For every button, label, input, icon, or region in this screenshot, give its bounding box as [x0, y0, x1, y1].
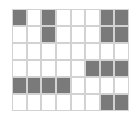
grid-cell-r4-c2: [42, 78, 55, 93]
grid-cell-r1-c7: [115, 27, 128, 42]
grid-cell-r0-c3: [57, 10, 70, 25]
grid-cell-r5-c5: [86, 95, 99, 110]
grid-cell-r2-c7: [115, 44, 128, 59]
grid-cell-r3-c2: [42, 61, 55, 76]
grid-cell-r0-c0: [13, 10, 26, 25]
grid-cell-r1-c3: [57, 27, 70, 42]
grid-cell-r0-c4: [72, 10, 85, 25]
grid-cell-r2-c0: [13, 44, 26, 59]
grid-cell-r2-c4: [72, 44, 85, 59]
grid-cell-r5-c7: [115, 95, 128, 110]
grid-cell-r0-c5: [86, 10, 99, 25]
grid-cell-r5-c1: [28, 95, 41, 110]
grid-cell-r1-c5: [86, 27, 99, 42]
grid-cell-r4-c4: [72, 78, 85, 93]
grid-cell-r4-c3: [57, 78, 70, 93]
grid-cell-r2-c2: [42, 44, 55, 59]
grid-cell-r5-c0: [13, 95, 26, 110]
grid-cell-r2-c6: [101, 44, 114, 59]
grid-cell-r1-c0: [13, 27, 26, 42]
pixel-grid: [12, 9, 129, 111]
grid-cell-r0-c6: [101, 10, 114, 25]
grid-cell-r4-c6: [101, 78, 114, 93]
grid-cell-r0-c7: [115, 10, 128, 25]
grid-cell-r4-c0: [13, 78, 26, 93]
grid-cell-r3-c7: [115, 61, 128, 76]
grid-cell-r3-c0: [13, 61, 26, 76]
grid-cell-r5-c4: [72, 95, 85, 110]
grid-cell-r5-c3: [57, 95, 70, 110]
grid-cell-r0-c2: [42, 10, 55, 25]
grid-cell-r3-c5: [86, 61, 99, 76]
grid-cell-r4-c5: [86, 78, 99, 93]
grid-cell-r3-c6: [101, 61, 114, 76]
grid-cell-r2-c3: [57, 44, 70, 59]
grid-cell-r3-c4: [72, 61, 85, 76]
grid-cell-r0-c1: [28, 10, 41, 25]
grid-cell-r2-c1: [28, 44, 41, 59]
grid-cell-r3-c3: [57, 61, 70, 76]
grid-cell-r5-c2: [42, 95, 55, 110]
grid-cell-r1-c6: [101, 27, 114, 42]
grid-cell-r1-c2: [42, 27, 55, 42]
grid-cell-r3-c1: [28, 61, 41, 76]
grid-cell-r4-c1: [28, 78, 41, 93]
grid-cell-r1-c4: [72, 27, 85, 42]
grid-cell-r2-c5: [86, 44, 99, 59]
grid-cell-r1-c1: [28, 27, 41, 42]
grid-cell-r5-c6: [101, 95, 114, 110]
grid-cell-r4-c7: [115, 78, 128, 93]
